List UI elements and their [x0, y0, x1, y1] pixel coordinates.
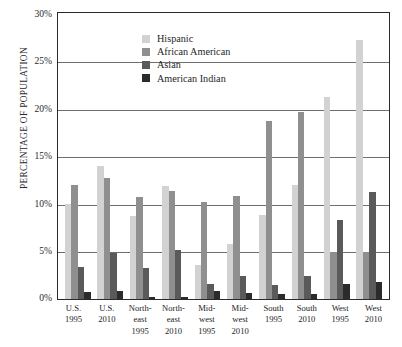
legend-item: African American	[142, 46, 230, 57]
x-tick-label: U.S.2010	[91, 303, 122, 337]
bar-group	[292, 13, 318, 299]
bar	[311, 294, 317, 299]
y-tick-label: 30%	[12, 8, 52, 19]
y-tick-label: 5%	[12, 245, 52, 256]
bar	[246, 293, 252, 299]
x-tick-label: South2010	[291, 303, 322, 337]
y-tick-label: 15%	[12, 150, 52, 161]
x-tick-label: Mid-west1995	[191, 303, 222, 337]
bar-chart: PERCENTAGE OF POPULATION 30%25%20%15%10%…	[0, 0, 402, 347]
legend-item: Hispanic	[142, 33, 230, 44]
legend-item: American Indian	[142, 73, 230, 84]
bar-group	[356, 13, 382, 299]
x-tick-label: U.S.1995	[58, 303, 89, 337]
legend-item: Asian	[142, 59, 230, 70]
x-tick-label: West2010	[358, 303, 389, 337]
bar	[175, 250, 181, 299]
legend-swatch-icon	[142, 61, 150, 69]
bar	[117, 291, 123, 299]
bar-group	[227, 13, 253, 299]
x-axis-tick-labels: U.S.1995U.S.2010North-east1995North-east…	[57, 303, 390, 337]
bar	[214, 291, 220, 300]
y-tick-label: 20%	[12, 103, 52, 114]
bar	[278, 294, 284, 299]
legend-swatch-icon	[142, 74, 150, 82]
x-tick-label: West1995	[325, 303, 356, 337]
bar	[298, 112, 304, 299]
legend-label: American Indian	[157, 73, 226, 84]
bar	[343, 284, 349, 299]
plot-area: HispanicAfrican AmericanAsianAmerican In…	[57, 12, 390, 300]
bar	[266, 121, 272, 300]
y-tick-label: 10%	[12, 198, 52, 209]
bar-group	[324, 13, 350, 299]
y-tick-label: 25%	[12, 55, 52, 66]
bar	[84, 292, 90, 299]
legend-swatch-icon	[142, 35, 150, 43]
legend-swatch-icon	[142, 48, 150, 56]
bar	[376, 282, 382, 299]
x-tick-label: North-east2010	[158, 303, 189, 337]
legend-label: Asian	[157, 59, 181, 70]
legend-label: African American	[157, 46, 230, 57]
bar-group	[259, 13, 285, 299]
bar-group	[97, 13, 123, 299]
x-tick-label: Mid-west2010	[225, 303, 256, 337]
x-tick-label: North-east1995	[125, 303, 156, 337]
x-tick-label: South1995	[258, 303, 289, 337]
legend-label: Hispanic	[157, 33, 193, 44]
bar-group	[65, 13, 91, 299]
bar	[143, 268, 149, 299]
bar	[181, 297, 187, 299]
y-tick-label: 0%	[12, 292, 52, 303]
bar	[149, 297, 155, 299]
legend: HispanicAfrican AmericanAsianAmerican In…	[142, 33, 230, 84]
